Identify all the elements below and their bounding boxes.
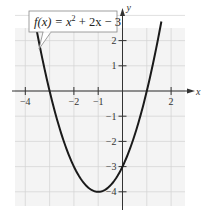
y-axis-label: y (126, 2, 132, 13)
y-tick-label: 1 (112, 60, 117, 71)
y-tick-label: −1 (106, 111, 117, 122)
x-tick-label: −1 (93, 96, 104, 107)
y-tick-label: 2 (112, 35, 117, 46)
x-tick-label: −2 (69, 96, 80, 107)
y-tick-label: −3 (106, 161, 117, 172)
y-tick-label: −2 (106, 136, 117, 147)
x-axis-arrow-icon (187, 89, 195, 94)
x-tick-label: 2 (169, 96, 174, 107)
x-axis-label: x (195, 86, 201, 97)
equation-label: f(x) = x2 + 2x − 3 (34, 14, 121, 29)
function-graph: xy −4−2−1221−1−2−3−4 f(x) = x2 + 2x − 3 (0, 0, 203, 221)
plot-background (15, 28, 185, 206)
x-tick-label: −4 (20, 96, 31, 107)
